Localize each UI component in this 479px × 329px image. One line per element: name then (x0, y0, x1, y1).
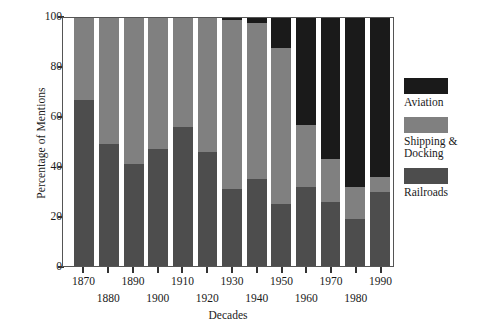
bar-segment-railroads (247, 179, 267, 266)
x-tick-label: 1890 (110, 276, 156, 288)
bar-segment-railroads (173, 127, 193, 266)
x-tick-label: 1940 (234, 293, 280, 305)
stacked-bar-chart-figure: Percentage of Mentions 020406080100 1870… (0, 0, 479, 329)
bar-segment-shipping-docking (345, 187, 365, 219)
y-tick-label: 0 (24, 261, 62, 273)
bar-segment-aviation (271, 18, 291, 48)
bar-segment-shipping-docking (148, 18, 168, 149)
bar-segment-shipping-docking (321, 159, 341, 201)
x-tick-mark (305, 267, 307, 273)
y-tick-label: 100 (24, 11, 62, 23)
bar-segment-railroads (222, 189, 242, 266)
bar-segment-shipping-docking (173, 18, 193, 127)
bar-segment-railroads (296, 187, 316, 266)
bar-1980 (343, 18, 368, 266)
bar-segment-aviation (345, 18, 365, 187)
bar-segment-railroads (271, 204, 291, 266)
x-tick-label: 1950 (259, 276, 305, 288)
x-tick-label: 1920 (184, 293, 230, 305)
y-tick-label: 60 (24, 111, 62, 123)
bar-segment-shipping-docking (124, 18, 144, 164)
legend-item[interactable]: Shipping & Docking (404, 117, 479, 159)
bar-column (173, 18, 193, 266)
x-tick-mark (281, 267, 283, 273)
x-tick-mark (206, 267, 208, 273)
bar-segment-shipping-docking (271, 48, 291, 204)
bar-1960 (293, 18, 318, 266)
plot-area (62, 17, 394, 267)
bar-1900 (146, 18, 171, 266)
bar-column (99, 18, 119, 266)
bar-segment-shipping-docking (198, 18, 218, 152)
x-tick-label: 1980 (333, 293, 379, 305)
x-tick-label: 1870 (60, 276, 106, 288)
bar-column (296, 18, 316, 266)
x-tick-label: 1930 (209, 276, 255, 288)
x-tick-mark (355, 267, 357, 273)
legend-swatch-icon (404, 117, 448, 133)
bar-segment-aviation (321, 18, 341, 159)
bar-segment-shipping-docking (370, 177, 390, 192)
x-tick-label: 1900 (135, 293, 181, 305)
y-axis-title: Percentage of Mentions (35, 18, 47, 268)
legend-swatch-icon (404, 168, 448, 184)
bar-segment-shipping-docking (99, 18, 119, 144)
x-tick-mark (330, 267, 332, 273)
bar-column (198, 18, 218, 266)
bar-column (74, 18, 94, 266)
bar-1920 (195, 18, 220, 266)
legend-item[interactable]: Aviation (404, 78, 479, 108)
bar-1880 (97, 18, 122, 266)
legend-swatch-icon (404, 78, 448, 94)
x-tick-mark (256, 267, 258, 273)
bar-column (148, 18, 168, 266)
bar-segment-railroads (99, 144, 119, 266)
bar-column (345, 18, 365, 266)
bar-1890 (121, 18, 146, 266)
bar-segment-railroads (124, 164, 144, 266)
bar-column (370, 18, 390, 266)
x-tick-label: 1970 (308, 276, 354, 288)
bar-1970 (318, 18, 343, 266)
x-tick-mark (181, 267, 183, 273)
bars-container (63, 18, 393, 266)
x-tick-mark (82, 267, 84, 273)
x-tick-mark (107, 267, 109, 273)
x-tick-mark (132, 267, 134, 273)
x-tick-mark (157, 267, 159, 273)
x-tick-mark (231, 267, 233, 273)
bar-segment-railroads (321, 202, 341, 266)
legend-item[interactable]: Railroads (404, 168, 479, 198)
bar-column (222, 18, 242, 266)
bar-1870 (72, 18, 97, 266)
bar-segment-railroads (345, 219, 365, 266)
legend-label: Aviation (404, 96, 479, 108)
bar-1910 (170, 18, 195, 266)
x-tick-label: 1880 (85, 293, 131, 305)
bar-segment-railroads (74, 100, 94, 266)
bar-1990 (367, 18, 392, 266)
bar-segment-railroads (198, 152, 218, 266)
x-tick-label: 1990 (358, 276, 404, 288)
chart-legend: AviationShipping & DockingRailroads (404, 78, 479, 207)
bar-segment-shipping-docking (74, 18, 94, 100)
legend-label: Railroads (404, 186, 479, 198)
x-axis-title: Decades (62, 309, 394, 321)
bar-1930 (220, 18, 245, 266)
y-tick-label: 40 (24, 161, 62, 173)
bar-segment-railroads (148, 149, 168, 266)
bar-column (124, 18, 144, 266)
bar-segment-railroads (370, 192, 390, 266)
legend-label: Shipping & Docking (404, 135, 479, 159)
bar-segment-aviation (296, 18, 316, 125)
x-tick-mark (380, 267, 382, 273)
y-tick-label: 80 (24, 61, 62, 73)
bar-1940 (244, 18, 269, 266)
bar-column (271, 18, 291, 266)
bar-segment-shipping-docking (247, 23, 267, 179)
bar-segment-aviation (370, 18, 390, 177)
x-tick-label: 1910 (159, 276, 205, 288)
bar-segment-shipping-docking (222, 20, 242, 189)
bar-column (321, 18, 341, 266)
bar-1950 (269, 18, 294, 266)
